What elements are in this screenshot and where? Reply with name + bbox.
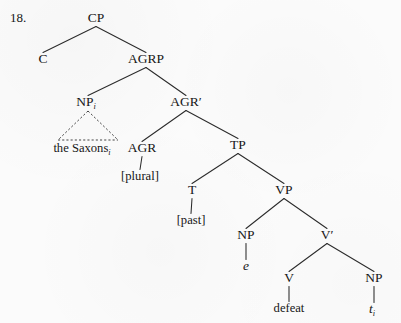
triangle-left-edge [58, 111, 88, 140]
tree-node-cp: CP [88, 10, 105, 25]
tree-node-defeat: defeat [274, 301, 305, 315]
tree-branch-agrbar-to-tp [186, 111, 238, 139]
node-label-text: defeat [274, 301, 305, 315]
node-label-text: NP [76, 94, 93, 109]
node-subscript-text: i [93, 102, 96, 111]
tree-node-agr: AGR [128, 140, 157, 155]
tree-branch-agrp-to-agrbar [146, 68, 186, 96]
tree-node-label-layer: CPCAGRPNPiAGR′the SaxonsiAGRTP[plural]TV… [38, 10, 382, 318]
tree-branch-vbar-to-npt [327, 244, 374, 272]
node-label-text: C [38, 51, 47, 66]
tree-node-agrp: AGRP [128, 51, 164, 66]
node-label-text: AGR [128, 140, 157, 155]
node-label-text: CP [88, 10, 105, 25]
tree-node-t: T [188, 182, 197, 197]
node-label-text: [plural] [121, 169, 159, 183]
tree-node-trace: ti [369, 301, 376, 318]
triangle-right-edge [88, 111, 118, 140]
node-label-text: [past] [177, 213, 206, 227]
tree-node-thesaxons: the Saxonsi [53, 141, 111, 157]
tree-node-v: V [284, 270, 294, 285]
tree-node-npt: NP [365, 270, 382, 285]
node-label-text: V′ [321, 227, 334, 242]
syntax-tree-diagram: CPCAGRPNPiAGR′the SaxonsiAGRTP[plural]TV… [0, 0, 401, 323]
tree-branch-vbar-to-v [289, 244, 327, 272]
tree-branch-agr-to-plural [140, 157, 142, 170]
tree-node-agrbar: AGR′ [170, 94, 202, 109]
node-subscript-text: i [373, 309, 376, 318]
tree-branch-vp-to-vbar [284, 199, 327, 229]
node-subscript-text: i [108, 148, 111, 157]
tree-node-vp: VP [275, 182, 292, 197]
tree-branch-tp-to-vp [238, 154, 284, 184]
tree-node-c: C [38, 51, 47, 66]
tree-node-past: [past] [177, 213, 206, 227]
tree-node-e: e [243, 258, 249, 273]
tree-branch-cp-to-c [43, 27, 96, 53]
tree-node-npi: NPi [76, 94, 96, 111]
tree-branch-tp-to-t [192, 154, 238, 184]
node-label-text: AGRP [128, 51, 164, 66]
tree-node-tp: TP [230, 137, 246, 152]
tree-branch-agrp-to-npi [88, 68, 146, 96]
tree-node-npe: NP [237, 227, 254, 242]
tree-node-vbar: V′ [321, 227, 334, 242]
tree-branch-t-to-past [191, 199, 192, 214]
tree-branch-agrbar-to-agr [142, 111, 186, 142]
tree-branch-cp-to-agrp [96, 27, 146, 53]
node-label-text: T [188, 182, 197, 197]
phrase-triangle-layer [58, 111, 118, 140]
node-label-text: NP [237, 227, 254, 242]
figure-canvas: CPCAGRPNPiAGR′the SaxonsiAGRTP[plural]TV… [0, 0, 401, 323]
node-label-text: NP [365, 270, 382, 285]
node-label-text: VP [275, 182, 292, 197]
tree-branch-vp-to-npe [246, 199, 284, 229]
node-label-text: the Saxons [53, 141, 108, 155]
node-label-text: e [243, 258, 249, 273]
node-label-text: AGR′ [170, 94, 202, 109]
node-label-text: TP [230, 137, 246, 152]
tree-node-plural: [plural] [121, 169, 159, 183]
example-number-label: 18. [10, 10, 26, 25]
tree-branch-layer [43, 27, 374, 303]
node-label-text: V [284, 270, 294, 285]
